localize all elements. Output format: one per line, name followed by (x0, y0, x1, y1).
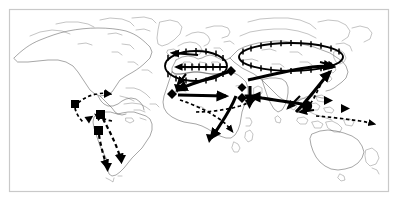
map-svg-canvas (0, 0, 398, 210)
marker-peru-filled-square (94, 126, 103, 135)
route-sahel-eastward-arrow (178, 95, 226, 96)
marker-mexico-filled-square (71, 100, 79, 108)
world-dispersal-map-figure: World map of dispersal routes No legend,… (0, 0, 398, 210)
marker-colombia-filled-square (96, 110, 105, 119)
